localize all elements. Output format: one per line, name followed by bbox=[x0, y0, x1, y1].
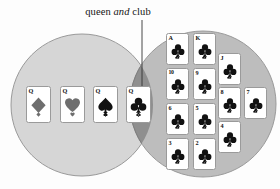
card-suit-mini-club-icon bbox=[194, 46, 215, 62]
card-k-of-clubs: K bbox=[193, 33, 216, 65]
card-rank: K bbox=[196, 34, 201, 41]
annotation-prefix: queen bbox=[85, 6, 113, 17]
card-suit-mini-club-icon bbox=[167, 151, 188, 167]
card-rank: Q bbox=[129, 87, 134, 94]
card-rank: 3 bbox=[169, 139, 172, 146]
card-rank: Q bbox=[63, 87, 68, 94]
card-suit-mini-club-icon bbox=[167, 46, 188, 62]
card-9-of-clubs: 9 bbox=[193, 68, 216, 100]
card-4-of-clubs: 4 bbox=[218, 121, 241, 153]
card-suit-mini-club-icon bbox=[194, 151, 215, 167]
card-rank: 9 bbox=[196, 69, 199, 76]
card-8-of-clubs: 8 bbox=[218, 87, 241, 119]
annotation-emphasis: and bbox=[114, 6, 130, 17]
card-a-of-clubs: A bbox=[166, 33, 189, 65]
card-j-of-clubs: J bbox=[218, 53, 241, 85]
card-suit-mini-club-icon bbox=[194, 116, 215, 132]
card-6-of-clubs: 6 bbox=[166, 103, 189, 135]
card-suit-mini-club-icon bbox=[245, 100, 266, 116]
card-rank: 6 bbox=[169, 104, 172, 111]
card-rank: J bbox=[221, 54, 224, 61]
card-suit-mini-club-icon bbox=[219, 100, 240, 116]
card-suit-mini-club-icon bbox=[167, 116, 188, 132]
card-5-of-clubs: 5 bbox=[193, 103, 216, 135]
card-suit-mini-spade-icon bbox=[94, 104, 117, 120]
card-rank: 7 bbox=[247, 88, 250, 95]
card-q-of-spades: Q bbox=[93, 86, 118, 123]
card-rank: 8 bbox=[221, 88, 224, 95]
card-q-of-hearts: Q bbox=[60, 86, 85, 123]
card-suit-mini-club-icon bbox=[167, 81, 188, 97]
card-suit-mini-club-icon bbox=[219, 66, 240, 82]
card-rank: Q bbox=[29, 87, 34, 94]
card-suit-mini-heart-icon bbox=[61, 104, 84, 120]
card-suit-mini-club-icon bbox=[219, 134, 240, 150]
card-2-of-clubs: 2 bbox=[193, 138, 216, 170]
card-rank: 10 bbox=[169, 69, 174, 76]
card-7-of-clubs: 7 bbox=[244, 87, 267, 119]
card-suit-mini-club-icon bbox=[127, 104, 150, 120]
annotation-label: queen and club bbox=[0, 6, 280, 17]
card-rank: A bbox=[169, 34, 173, 41]
card-rank: Q bbox=[96, 87, 101, 94]
card-suit-mini-club-icon bbox=[194, 81, 215, 97]
annotation-suffix: club bbox=[130, 6, 151, 17]
card-suit-mini-diamond-icon bbox=[27, 104, 50, 120]
card-10-of-clubs: 10 bbox=[166, 68, 189, 100]
card-rank: 4 bbox=[221, 122, 224, 129]
venn-diagram-figure: queen and club QQQ Q AKJ1098765432 bbox=[0, 0, 280, 189]
card-3-of-clubs: 3 bbox=[166, 138, 189, 170]
card-q-of-clubs: Q bbox=[126, 86, 151, 123]
card-rank: 2 bbox=[196, 139, 199, 146]
card-q-of-diamonds: Q bbox=[26, 86, 51, 123]
card-rank: 5 bbox=[196, 104, 199, 111]
